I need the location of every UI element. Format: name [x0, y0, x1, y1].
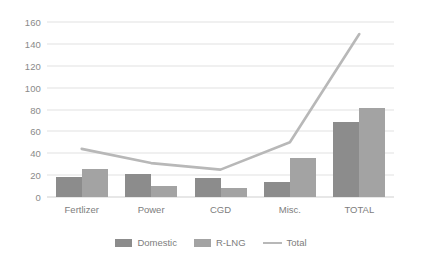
bar-domestic [195, 178, 221, 197]
chart-legend: DomesticR-LNGTotal [0, 237, 422, 248]
combo-chart: 160140120100806040200 FertlizerPowerCGDM… [0, 0, 422, 263]
legend-item[interactable]: Total [263, 237, 307, 248]
y-axis-tick-label: 100 [25, 82, 41, 93]
legend-label: Domestic [137, 237, 177, 248]
bar-rlng [290, 158, 316, 197]
bar-rlng [151, 186, 177, 197]
category-group: Misc. [255, 22, 324, 197]
line-swatch-icon [263, 242, 282, 244]
category-group: Power [116, 22, 185, 197]
bar-domestic [264, 182, 290, 197]
y-axis-tick-label: 40 [30, 148, 41, 159]
y-axis-tick-label: 120 [25, 60, 41, 71]
y-axis-tick-label: 140 [25, 38, 41, 49]
legend-item[interactable]: Domestic [115, 237, 177, 248]
y-axis-tick-label: 80 [30, 104, 41, 115]
bar-series-layer: FertlizerPowerCGDMisc.TOTAL [47, 22, 394, 197]
bar-rlng [221, 188, 247, 197]
category-group: Fertlizer [47, 22, 116, 197]
bar-domestic [333, 122, 359, 197]
square-swatch-icon [115, 239, 132, 247]
legend-label: R-LNG [216, 237, 246, 248]
category-group: TOTAL [325, 22, 394, 197]
category-group: CGD [186, 22, 255, 197]
x-axis-tick-label: CGD [186, 204, 255, 215]
y-axis-tick-label: 20 [30, 170, 41, 181]
y-axis-tick-label: 0 [36, 192, 41, 203]
plot-area: 160140120100806040200 FertlizerPowerCGDM… [47, 22, 394, 197]
x-axis-tick-label: Misc. [255, 204, 324, 215]
square-swatch-icon [194, 239, 211, 247]
legend-item[interactable]: R-LNG [194, 237, 246, 248]
bar-rlng [82, 169, 108, 197]
bar-rlng [359, 108, 385, 197]
x-axis-tick-label: Power [116, 204, 185, 215]
legend-label: Total [287, 237, 307, 248]
bar-domestic [125, 174, 151, 197]
y-axis-tick-label: 160 [25, 17, 41, 28]
bar-domestic [56, 177, 82, 197]
y-axis-tick-label: 60 [30, 126, 41, 137]
x-axis-tick-label: Fertlizer [47, 204, 116, 215]
x-axis-tick-label: TOTAL [325, 204, 394, 215]
